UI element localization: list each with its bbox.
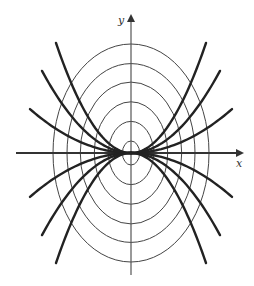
x-axis-label: x [236, 157, 243, 170]
y-axis-label: y [117, 14, 125, 27]
diagram-canvas: x y [0, 0, 254, 286]
